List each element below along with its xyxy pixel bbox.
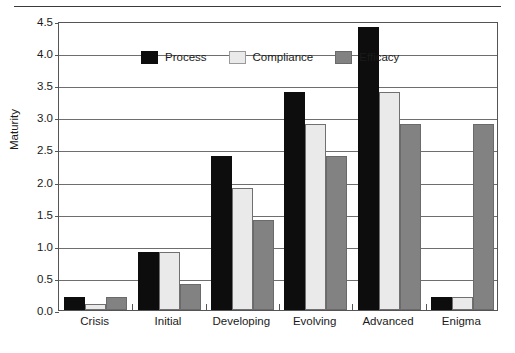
bar-compliance-initial bbox=[159, 252, 180, 310]
bar-chart-figure: Maturity 0.00.51.01.52.02.53.03.54.04.5 … bbox=[0, 0, 515, 353]
y-tick-mark bbox=[55, 280, 59, 281]
legend-swatch-process-icon bbox=[141, 51, 158, 64]
bar-efficacy-advanced bbox=[400, 124, 421, 310]
y-tick-label: 2.5 bbox=[37, 146, 53, 158]
y-tick-mark bbox=[55, 248, 59, 249]
y-tick-label: 0.5 bbox=[37, 274, 53, 286]
y-tick-label: 2.0 bbox=[37, 178, 53, 190]
bar-process-initial bbox=[138, 252, 159, 310]
legend-entry-process: Process bbox=[141, 51, 207, 64]
y-tick-mark bbox=[55, 184, 59, 185]
x-separator-tick bbox=[279, 304, 280, 310]
legend-label-efficacy: Efficacy bbox=[359, 51, 399, 63]
y-tick-mark bbox=[55, 119, 59, 120]
gridline bbox=[59, 248, 497, 249]
x-separator-tick bbox=[352, 304, 353, 310]
y-tick-label: 3.5 bbox=[37, 81, 53, 93]
x-tick-label-advanced: Advanced bbox=[362, 315, 413, 327]
bar-compliance-advanced bbox=[379, 92, 400, 310]
legend-entry-compliance: Compliance bbox=[229, 51, 314, 64]
bar-efficacy-developing bbox=[253, 220, 274, 310]
legend-swatch-compliance-icon bbox=[229, 51, 246, 64]
legend-label-process: Process bbox=[165, 51, 207, 63]
legend-label-compliance: Compliance bbox=[253, 51, 314, 63]
bar-compliance-enigma bbox=[452, 297, 473, 310]
bar-compliance-evolving bbox=[305, 124, 326, 310]
bar-compliance-crisis bbox=[85, 304, 106, 310]
bar-efficacy-enigma bbox=[473, 124, 494, 310]
bar-efficacy-initial bbox=[180, 284, 201, 310]
top-horizontal-rule bbox=[14, 6, 501, 7]
x-tick-label-enigma: Enigma bbox=[442, 315, 481, 327]
bar-process-developing bbox=[211, 156, 232, 310]
y-tick-label: 4.0 bbox=[37, 49, 53, 61]
x-separator-tick bbox=[426, 304, 427, 310]
gridline bbox=[59, 216, 497, 217]
gridline bbox=[59, 184, 497, 185]
gridline bbox=[59, 87, 497, 88]
bar-process-crisis bbox=[64, 297, 85, 310]
y-tick-label: 1.5 bbox=[37, 210, 53, 222]
x-separator-tick bbox=[206, 304, 207, 310]
y-axis-title: Maturity bbox=[8, 109, 20, 150]
y-tick-mark bbox=[55, 87, 59, 88]
chart-legend: Process Compliance Efficacy bbox=[141, 49, 421, 65]
y-tick-mark bbox=[55, 55, 59, 56]
y-tick-label: 4.5 bbox=[37, 17, 53, 29]
bar-efficacy-evolving bbox=[326, 156, 347, 310]
y-tick-mark bbox=[55, 23, 59, 24]
y-tick-label: 0.0 bbox=[37, 306, 53, 318]
x-tick-label-evolving: Evolving bbox=[293, 315, 336, 327]
plot-area: 0.00.51.01.52.02.53.03.54.04.5 Process C… bbox=[58, 22, 498, 311]
gridline bbox=[59, 280, 497, 281]
gridline bbox=[59, 151, 497, 152]
gridline bbox=[59, 119, 497, 120]
bar-efficacy-crisis bbox=[106, 297, 127, 310]
x-tick-label-crisis: Crisis bbox=[80, 315, 109, 327]
legend-swatch-efficacy-icon bbox=[335, 51, 352, 64]
bar-compliance-developing bbox=[232, 188, 253, 310]
x-separator-tick bbox=[132, 304, 133, 310]
x-tick-label-developing: Developing bbox=[213, 315, 271, 327]
y-tick-label: 1.0 bbox=[37, 242, 53, 254]
bar-process-enigma bbox=[431, 297, 452, 310]
legend-entry-efficacy: Efficacy bbox=[335, 51, 399, 64]
y-tick-mark bbox=[55, 151, 59, 152]
y-tick-label: 3.0 bbox=[37, 114, 53, 126]
x-tick-label-initial: Initial bbox=[155, 315, 182, 327]
bar-process-evolving bbox=[284, 92, 305, 310]
bar-process-advanced bbox=[358, 27, 379, 310]
y-tick-mark bbox=[55, 312, 59, 313]
y-tick-mark bbox=[55, 216, 59, 217]
